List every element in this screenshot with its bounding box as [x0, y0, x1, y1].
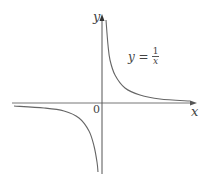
curve-left-branch	[14, 106, 98, 172]
x-axis-label: x	[191, 104, 198, 119]
plot-svg	[0, 0, 212, 185]
equation-fraction: 1 x	[152, 47, 160, 66]
equation-denominator: x	[153, 57, 158, 66]
equation-lhs: y =	[128, 50, 149, 64]
origin-label: 0	[93, 103, 100, 116]
y-axis-label: y	[93, 9, 100, 24]
equation-label: y = 1 x	[128, 47, 159, 66]
graph-canvas: y x 0 y = 1 x	[0, 0, 212, 185]
